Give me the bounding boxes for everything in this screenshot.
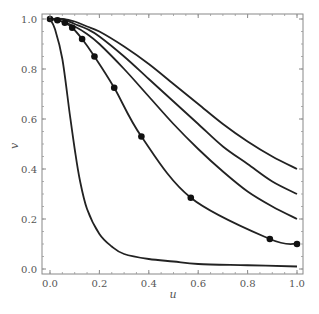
data-point-marker — [54, 17, 61, 24]
data-point-marker — [187, 194, 194, 201]
data-point-marker — [267, 236, 274, 243]
y-tick-label: 0.2 — [21, 214, 37, 225]
data-point-marker — [91, 53, 98, 60]
x-tick-label: 1.0 — [289, 278, 305, 289]
y-tick-label: 0.8 — [21, 64, 37, 75]
data-point-marker — [294, 241, 301, 248]
data-point-marker — [138, 133, 145, 140]
y-tick-label: 1.0 — [21, 14, 37, 25]
line-chart: 0.00.20.40.60.81.00.00.20.40.60.81.0 u v — [0, 0, 319, 314]
data-point-marker — [79, 36, 86, 43]
x-axis-label: u — [169, 288, 176, 301]
x-tick-label: 0.8 — [240, 278, 256, 289]
x-tick-label: 0.0 — [42, 278, 58, 289]
series-line — [50, 19, 297, 169]
data-point-marker — [111, 84, 118, 91]
y-tick-label: 0.6 — [21, 114, 37, 125]
series-line — [50, 19, 297, 267]
y-axis-label: v — [8, 142, 21, 149]
x-tick-label: 0.2 — [91, 278, 107, 289]
data-point-marker — [62, 19, 69, 26]
chart-svg: 0.00.20.40.60.81.00.00.20.40.60.81.0 u v — [0, 0, 319, 314]
y-tick-label: 0.4 — [21, 164, 37, 175]
data-point-marker — [69, 24, 76, 31]
x-tick-label: 0.6 — [190, 278, 206, 289]
plot-series — [47, 16, 301, 267]
y-tick-label: 0.0 — [21, 264, 37, 275]
x-tick-label: 0.4 — [141, 278, 157, 289]
plot-frame — [42, 14, 303, 274]
series-line — [50, 19, 297, 219]
